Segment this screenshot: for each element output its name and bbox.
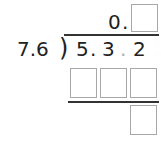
subtraction-line [68, 101, 159, 103]
quotient-decimal-point: . [122, 12, 128, 32]
product-answer-box-2[interactable] [100, 68, 127, 98]
dividend-digit-1: 5 [76, 39, 89, 59]
division-bracket-line [64, 34, 159, 36]
dividend-digit-3: 2 [133, 39, 146, 59]
product-answer-box-1[interactable] [70, 68, 97, 98]
dividend-decimal-point: . [90, 39, 96, 59]
dividend-digit-2: 3 [102, 39, 115, 59]
quotient-answer-box[interactable] [131, 4, 158, 32]
divisor: 7.6 [17, 39, 49, 59]
division-bracket: ) [59, 38, 68, 58]
shifted-decimal-point: . [120, 39, 126, 59]
quotient-digit: 0 [108, 12, 121, 32]
remainder-answer-box[interactable] [130, 105, 157, 135]
product-answer-box-3[interactable] [130, 68, 157, 98]
